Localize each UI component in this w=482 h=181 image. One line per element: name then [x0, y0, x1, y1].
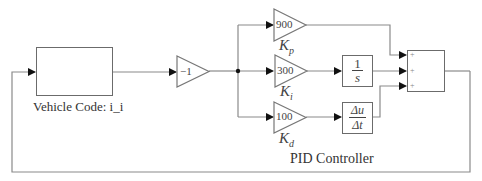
- pid-controller-title: PID Controller: [290, 151, 374, 167]
- kd-label: Kd: [279, 130, 294, 149]
- derivative-transfer-function: Δu Δt: [342, 104, 373, 132]
- junction-dot: [236, 69, 240, 73]
- sum-sign-2: +: [410, 66, 415, 75]
- sum-sign-3: +: [410, 81, 415, 90]
- vehicle-block-label: Vehicle Code: i_i: [33, 99, 123, 115]
- sum-sign-1: +: [410, 50, 415, 59]
- negate-gain-value[interactable]: −1: [180, 65, 192, 77]
- integrator-transfer-function: 1 s: [342, 57, 373, 85]
- ki-label: Ki: [280, 83, 293, 102]
- vehicle-block[interactable]: [36, 47, 113, 96]
- ki-gain-value[interactable]: 300: [277, 64, 294, 76]
- kd-gain-value[interactable]: 100: [276, 110, 293, 122]
- kp-label: Kp: [279, 37, 294, 56]
- kp-gain-value[interactable]: 900: [276, 18, 293, 30]
- pid-control-diagram: Vehicle Code: i_i −1 900 300 100 Kp Ki K…: [0, 0, 482, 181]
